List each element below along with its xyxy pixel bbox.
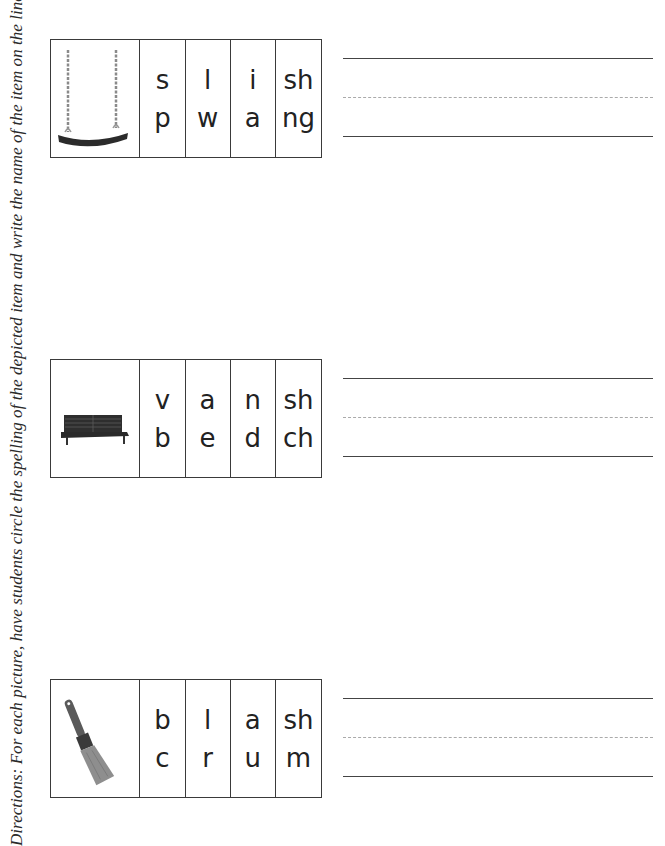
letter-option[interactable]: p: [154, 99, 171, 137]
midline-dashed: [343, 417, 653, 418]
picture-bench: [51, 360, 140, 477]
letter-option[interactable]: v: [155, 381, 170, 419]
letter-option[interactable]: w: [197, 99, 218, 137]
letter-option[interactable]: a: [245, 99, 261, 137]
midline-dashed: [343, 97, 653, 98]
letter-column-2: l r: [186, 680, 231, 797]
letter-column-2: a e: [186, 360, 231, 477]
letter-column-4: sh m: [276, 680, 321, 797]
midline-dashed: [343, 737, 653, 738]
letter-option[interactable]: sh: [283, 381, 313, 419]
item-row-paintbrush: b c l r a u sh m: [50, 679, 656, 800]
writing-lines[interactable]: [343, 359, 653, 459]
letter-option[interactable]: l: [204, 61, 211, 99]
top-line: [343, 698, 653, 699]
item-row-bench: v b a e n d sh ch: [50, 359, 656, 480]
paintbrush-icon: [51, 680, 139, 796]
letter-option[interactable]: ng: [282, 99, 315, 137]
writing-lines[interactable]: [343, 679, 653, 779]
picture-swing: [51, 40, 140, 157]
letter-box: b c l r a u sh m: [50, 679, 322, 798]
letter-column-2: l w: [186, 40, 231, 157]
letter-option[interactable]: b: [154, 419, 171, 457]
letter-option[interactable]: n: [245, 381, 261, 419]
top-line: [343, 58, 653, 59]
swing-icon: [51, 40, 139, 156]
top-line: [343, 378, 653, 379]
letter-option[interactable]: sh: [283, 701, 313, 739]
letter-column-3: a u: [231, 680, 276, 797]
base-line: [343, 456, 653, 457]
picture-paintbrush: [51, 680, 140, 797]
letter-option[interactable]: m: [286, 739, 311, 777]
letter-column-3: n d: [231, 360, 276, 477]
writing-lines[interactable]: [343, 39, 653, 139]
directions-text: Directions: For each picture, have stude…: [0, 0, 34, 846]
letter-column-4: sh ch: [276, 360, 321, 477]
letter-option[interactable]: a: [245, 701, 261, 739]
letter-option[interactable]: sh: [283, 61, 313, 99]
letter-option[interactable]: s: [156, 61, 170, 99]
letter-option[interactable]: l: [204, 701, 211, 739]
letter-option[interactable]: e: [200, 419, 216, 457]
item-row-swing: s p l w i a sh ng: [50, 39, 656, 160]
letter-column-1: v b: [140, 360, 185, 477]
letter-option[interactable]: i: [249, 61, 256, 99]
bench-icon: [51, 360, 139, 476]
letter-box: s p l w i a sh ng: [50, 39, 322, 158]
letter-option[interactable]: u: [245, 739, 261, 777]
letter-box: v b a e n d sh ch: [50, 359, 322, 478]
base-line: [343, 136, 653, 137]
base-line: [343, 776, 653, 777]
letter-option[interactable]: d: [245, 419, 262, 457]
letter-option[interactable]: a: [200, 381, 216, 419]
letter-column-3: i a: [231, 40, 276, 157]
letter-column-1: s p: [140, 40, 185, 157]
letter-column-4: sh ng: [276, 40, 321, 157]
letter-option[interactable]: b: [154, 701, 171, 739]
letter-option[interactable]: r: [202, 739, 213, 777]
letter-option[interactable]: c: [155, 739, 169, 777]
letter-column-1: b c: [140, 680, 185, 797]
letter-option[interactable]: ch: [283, 419, 314, 457]
